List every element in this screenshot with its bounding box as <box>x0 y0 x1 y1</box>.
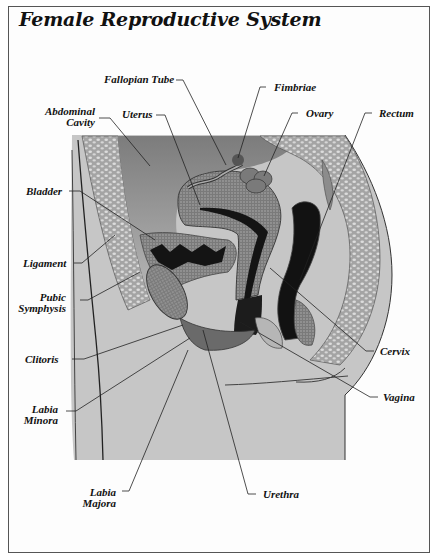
label-ovary: Ovary <box>306 108 334 119</box>
label-cervix: Cervix <box>380 346 410 357</box>
label-clitoris: Clitoris <box>25 354 59 365</box>
label-labia-majora: Labia Majora <box>78 487 116 509</box>
label-bladder: Bladder <box>26 186 62 197</box>
label-ligament: Ligament <box>23 258 66 269</box>
label-labia-minora: Labia Minora <box>18 404 58 426</box>
label-fimbriae: Fimbriae <box>274 82 316 93</box>
anatomy-illustration <box>0 0 435 560</box>
label-urethra: Urethra <box>263 489 299 500</box>
label-abdominal-cavity: Abdominal Cavity <box>32 106 95 128</box>
label-rectum: Rectum <box>379 108 414 119</box>
label-fallopian-tube: Fallopian Tube <box>104 74 174 85</box>
label-vagina: Vagina <box>383 392 415 403</box>
label-uterus: Uterus <box>122 109 153 120</box>
label-pubic-symphysis: Pubic Symphysis <box>18 292 66 314</box>
fimbriae <box>232 154 244 166</box>
